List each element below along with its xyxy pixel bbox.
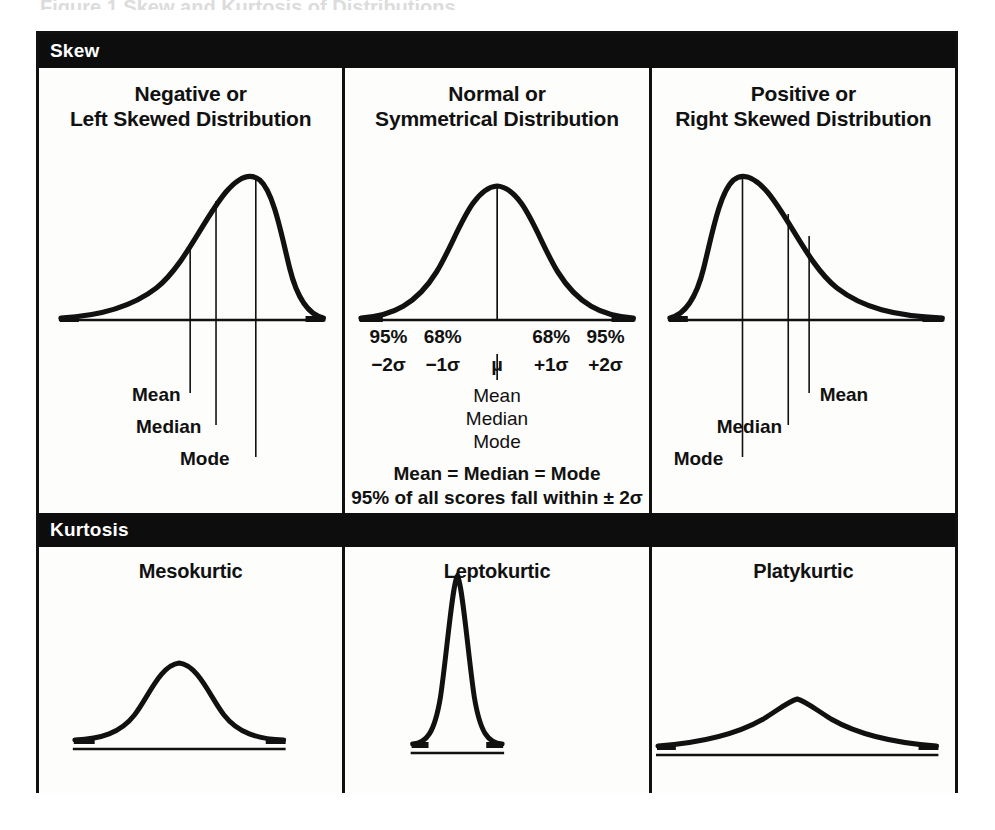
section-header-kurtosis: Kurtosis <box>39 513 955 547</box>
label-median-normal: Median <box>345 407 648 430</box>
panel-platykurtic: Platykurtic <box>649 547 955 793</box>
summary-line-equality: Mean = Median = Mode <box>345 462 648 486</box>
panel-leptokurtic: Leptokurtic <box>342 547 648 793</box>
panel-title-leptokurtic: Leptokurtic <box>345 559 648 583</box>
panel-title-mesokurtic: Mesokurtic <box>39 559 342 583</box>
section-header-skew-label: Skew <box>50 40 99 61</box>
chart-positive-skew <box>652 68 955 513</box>
figure-frame: Skew Negative or Left Skewed Distributio… <box>36 31 958 793</box>
percent-tick-row-normal: 95% 68% 68% 95% <box>345 326 648 348</box>
sigma-tick-pos1sigma: +1σ <box>524 354 578 376</box>
chart-leptokurtic <box>345 547 648 793</box>
cut-off-header-text: Figure 1 Skew and Kurtosis of Distributi… <box>40 0 456 10</box>
summary-normal: Mean = Median = Mode 95% of all scores f… <box>345 462 648 513</box>
label-median-positive-skew: Median <box>717 416 782 438</box>
chart-platykurtic <box>652 547 955 793</box>
label-median-negative-skew: Median <box>136 416 201 438</box>
label-mode-normal: Mode <box>345 430 648 453</box>
sigma-tick-neg2sigma: −2σ <box>361 354 415 376</box>
panel-title-normal: Normal or Symmetrical Distribution <box>345 81 648 131</box>
chart-negative-skew <box>39 68 342 513</box>
center-measures-normal: Mean Median Mode <box>345 384 648 453</box>
sigma-tick-mu: μ <box>470 354 524 376</box>
panel-mesokurtic: Mesokurtic <box>39 547 342 793</box>
chart-mesokurtic <box>39 547 342 793</box>
sigma-tick-row-normal: −2σ −1σ μ +1σ +2σ <box>345 354 648 376</box>
panel-title-negative-skew: Negative or Left Skewed Distribution <box>39 81 342 131</box>
sigma-tick-pos2sigma: +2σ <box>578 354 632 376</box>
panel-normal: Normal or Symmetrical Distribution 95% 6… <box>342 68 648 513</box>
percent-tick-neg2sigma: 95% <box>361 326 415 348</box>
label-mode-negative-skew: Mode <box>180 448 230 470</box>
panel-title-positive-skew: Positive or Right Skewed Distribution <box>652 81 955 131</box>
sigma-tick-neg1sigma: −1σ <box>416 354 470 376</box>
percent-tick-neg1sigma: 68% <box>416 326 470 348</box>
skew-panel-row: Negative or Left Skewed Distribution Me <box>39 68 955 513</box>
percent-tick-pos2sigma: 95% <box>578 326 632 348</box>
summary-line-95: 95% of all scores fall within ± 2σ <box>345 486 648 510</box>
panel-title-platykurtic: Platykurtic <box>652 559 955 583</box>
label-mode-positive-skew: Mode <box>674 448 724 470</box>
kurtosis-panel-row: Mesokurtic Leptokurtic <box>39 547 955 793</box>
percent-tick-pos1sigma: 68% <box>524 326 578 348</box>
label-mean-normal: Mean <box>345 384 648 407</box>
panel-negative-skew: Negative or Left Skewed Distribution Me <box>39 68 342 513</box>
label-mean-positive-skew: Mean <box>820 384 869 406</box>
section-header-skew: Skew <box>39 34 955 68</box>
panel-positive-skew: Positive or Right Skewed Distribution Me… <box>649 68 955 513</box>
section-header-kurtosis-label: Kurtosis <box>50 519 129 540</box>
label-mean-negative-skew: Mean <box>132 384 181 406</box>
percent-tick-mu <box>470 326 524 348</box>
